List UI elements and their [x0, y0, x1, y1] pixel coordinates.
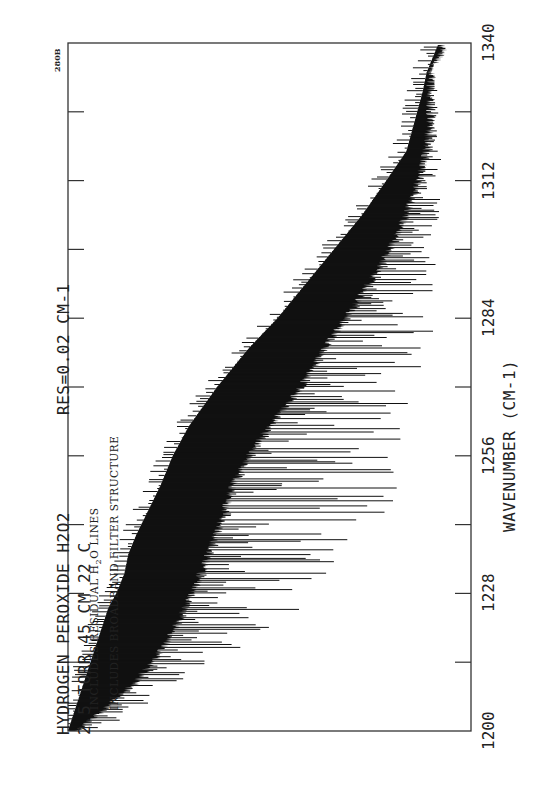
plate-id: 280B [52, 49, 62, 72]
x-tick-label: 1256 [479, 436, 498, 475]
x-tick-label: 1284 [479, 299, 498, 338]
x-tick-label: 1200 [479, 711, 498, 750]
x-tick-label: 1312 [479, 161, 498, 200]
x-tick-label: 1228 [479, 574, 498, 613]
x-axis-label: WAVENUMBER (CM-1) [500, 360, 519, 532]
note-residual-h2o: INCLUDES RESIDUAL H2O LINES [88, 507, 103, 710]
spectrum-trace [68, 45, 448, 731]
note-broadband-filter: INCLUDES BROADBAND FILTER STRUCTURE [108, 435, 120, 710]
x-tick-label: 1340 [479, 23, 498, 62]
chart-title: HYDROGEN PEROXIDE H2O2 [54, 512, 73, 735]
resolution-label: RES=0.02 CM-1 [54, 283, 73, 415]
spectrum-chart: HYDROGEN PEROXIDE H2O2 2.5 TORR 45 CM 22… [0, 0, 547, 796]
